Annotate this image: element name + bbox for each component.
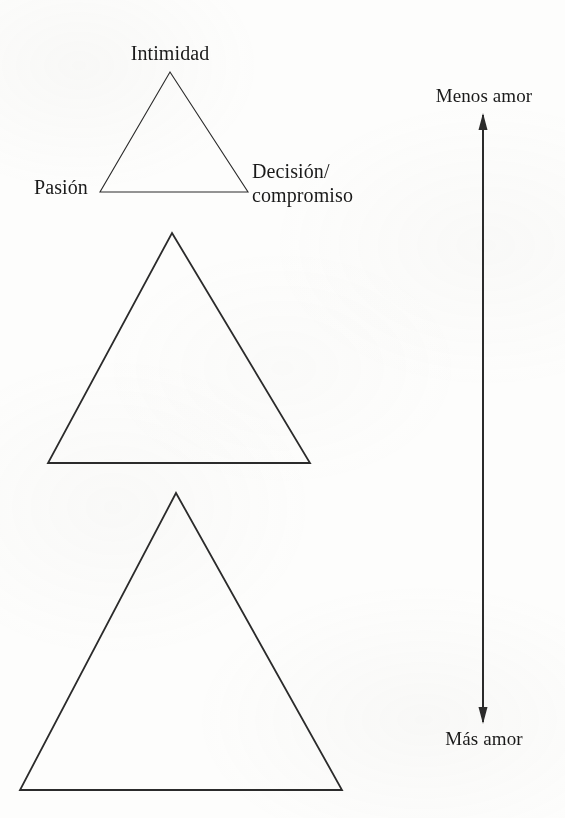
love-triangle-figure: Intimidad Pasión Decisión/compromiso Men… <box>0 0 565 818</box>
vertex-label-decision-line1: Decisión/ <box>252 160 330 182</box>
vertex-label-decision-compromiso: Decisión/compromiso <box>252 160 353 207</box>
vertex-label-decision-line2: compromiso <box>252 184 353 206</box>
scale-label-mas-amor: Más amor <box>414 728 554 749</box>
triangle-small <box>100 72 248 192</box>
triangle-large <box>20 493 342 790</box>
vertex-label-pasion: Pasión <box>34 176 88 198</box>
triangle-medium <box>48 233 310 463</box>
arrowhead-up-icon <box>479 113 488 130</box>
arrowhead-down-icon <box>479 707 488 724</box>
scale-label-menos-amor: Menos amor <box>414 85 554 106</box>
scale-arrow <box>479 113 488 724</box>
figure-canvas <box>0 0 565 818</box>
vertex-label-intimidad: Intimidad <box>0 42 340 64</box>
